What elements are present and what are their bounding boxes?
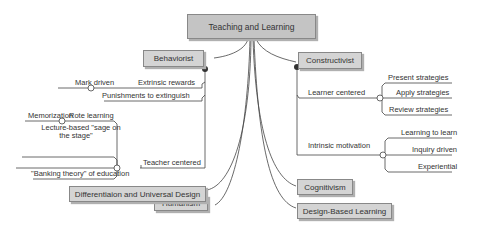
label-rote-learning: Rote learning bbox=[69, 111, 114, 120]
label-experiential: Experiential bbox=[418, 162, 457, 171]
design-based-label: Design-Based Learning bbox=[303, 207, 387, 216]
cognitivism-label: Cognitivism bbox=[304, 183, 345, 192]
label-teacher-centered: Teacher centered bbox=[143, 158, 201, 167]
node-behaviorist[interactable]: Behaviorist bbox=[143, 50, 204, 67]
label-learning-to-learn: Learning to learn bbox=[401, 128, 457, 137]
mind-map: Teaching and Learning Behaviorist Extrin… bbox=[0, 0, 482, 232]
label-present-strategies: Present strategies bbox=[388, 73, 448, 82]
label-intrinsic-motivation: Intrinsic motivation bbox=[308, 141, 370, 150]
root-label: Teaching and Learning bbox=[208, 22, 294, 32]
label-extrinsic-rewards: Extrinsic rewards bbox=[138, 78, 195, 87]
label-banking-theory: "Banking theory" of education bbox=[31, 169, 129, 178]
label-punishments: Punishments to extinguish bbox=[102, 91, 190, 100]
label-memorization: Memorization bbox=[28, 111, 73, 120]
label-apply-strategies: Apply strategies bbox=[396, 88, 449, 97]
label-learner-centered: Learner centered bbox=[308, 88, 365, 97]
node-cognitivism[interactable]: Cognitivism bbox=[297, 179, 353, 195]
differentiation-label: Differentiaion and Universal Design bbox=[75, 190, 200, 199]
behaviorist-label: Behaviorist bbox=[154, 54, 194, 63]
node-constructivist[interactable]: Constructivist bbox=[298, 52, 362, 69]
label-review-strategies: Review strategies bbox=[389, 105, 448, 114]
node-differentiation[interactable]: Differentiaion and Universal Design bbox=[69, 186, 206, 202]
label-lecture-line2: the stage" bbox=[41, 131, 111, 140]
label-mark-driven: Mark driven bbox=[75, 78, 114, 87]
label-inquiry-driven: Inquiry driven bbox=[412, 145, 457, 154]
constructivist-label: Constructivist bbox=[306, 56, 354, 65]
root-node[interactable]: Teaching and Learning bbox=[187, 14, 316, 39]
node-design-based-learning[interactable]: Design-Based Learning bbox=[297, 203, 392, 219]
